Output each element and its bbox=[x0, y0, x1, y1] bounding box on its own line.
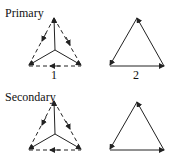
secondary-delta bbox=[110, 102, 164, 150]
primary-wye-delta bbox=[29, 18, 81, 66]
diagram-canvas bbox=[0, 0, 175, 165]
secondary-wye-delta bbox=[29, 101, 81, 150]
primary-delta bbox=[110, 18, 164, 66]
